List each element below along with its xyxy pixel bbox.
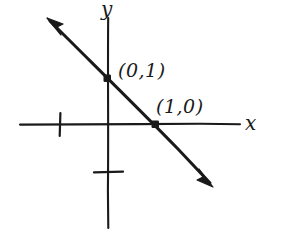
point-marker-y-intercept [104, 75, 112, 83]
x-axis-tick-negative-one [60, 113, 61, 136]
label-y-intercept: (0,1) [118, 59, 166, 81]
y-axis-label: y [100, 0, 113, 21]
y-axis-tick-negative-one [94, 172, 123, 173]
figure-background [0, 0, 281, 245]
point-marker-x-intercept [152, 121, 160, 129]
label-x-intercept: (1,0) [156, 95, 204, 117]
x-axis-line [20, 124, 240, 125]
coordinate-plane-sketch: (0,1) (1,0) y x [0, 0, 281, 245]
hand-drawn-graph-figure: (0,1) (1,0) y x [0, 0, 281, 245]
x-axis-label: x [245, 111, 256, 135]
